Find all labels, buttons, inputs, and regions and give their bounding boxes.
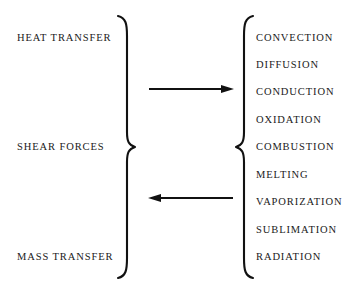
left-label-shear-forces: SHEAR FORCES — [17, 142, 105, 153]
right-brace — [231, 14, 257, 280]
figure-canvas: HEAT TRANSFER SHEAR FORCES MASS TRANSFER… — [0, 0, 364, 289]
right-label-oxidation: OXIDATION — [256, 115, 322, 126]
right-label-radiation: RADIATION — [256, 252, 321, 263]
left-label-mass-transfer: MASS TRANSFER — [17, 252, 113, 263]
arrow-right-icon — [148, 82, 234, 96]
right-label-convection: CONVECTION — [256, 33, 333, 44]
right-label-conduction: CONDUCTION — [256, 87, 334, 98]
arrow-left-icon — [148, 191, 234, 205]
forward-arrow — [148, 82, 234, 96]
right-label-combustion: COMBUSTION — [256, 142, 334, 153]
right-label-melting: MELTING — [256, 170, 309, 181]
left-label-heat-transfer: HEAT TRANSFER — [17, 33, 111, 44]
right-label-vaporization: VAPORIZATION — [256, 197, 342, 208]
right-label-sublimation: SUBLIMATION — [256, 225, 337, 236]
reverse-arrow — [148, 191, 234, 205]
right-label-diffusion: DIFFUSION — [256, 60, 319, 71]
left-brace-glyph — [114, 14, 140, 280]
right-brace-glyph — [231, 14, 257, 280]
left-brace — [114, 14, 140, 280]
